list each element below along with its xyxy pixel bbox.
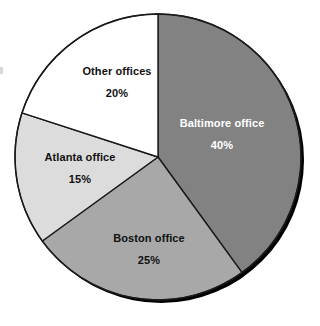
pie-chart: Baltimore office 40% Boston office 25% A… xyxy=(0,0,320,326)
page-margin-artifact xyxy=(0,67,3,74)
pie-chart-canvas xyxy=(0,0,320,326)
